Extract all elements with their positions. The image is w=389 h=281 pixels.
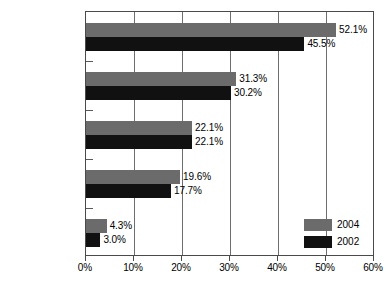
legend-item-2002: 2002 [304, 235, 372, 249]
bar-2002-billing [86, 37, 304, 51]
bar-2004-payroll [86, 170, 180, 184]
bar-value-label: 17.7% [174, 184, 202, 198]
x-axis-tick-label: 10% [113, 262, 153, 274]
x-axis-tick-label: 40% [257, 262, 297, 274]
bar-2004-check-tamp [86, 72, 236, 86]
bar-value-label: 4.3% [110, 219, 132, 233]
x-axis-tick [181, 256, 182, 261]
bar-2002-register-disb [86, 233, 100, 247]
x-axis-labels: 0%10%20%30%40%50%60% [0, 262, 389, 278]
chart-legend: 2004 2002 [304, 218, 372, 252]
bar-2004-billing [86, 23, 336, 37]
bar-value-label: 22.1% [195, 135, 223, 149]
x-axis-tick [133, 256, 134, 261]
bar-value-label: 19.6% [183, 170, 211, 184]
legend-swatch-2004 [304, 219, 332, 231]
category-separator-tick [86, 61, 93, 62]
legend-label-2004: 2004 [337, 218, 359, 232]
x-axis-tick-label: 20% [161, 262, 201, 274]
bar-2002-payroll [86, 184, 171, 198]
x-axis-tick-label: 50% [305, 262, 345, 274]
bar-value-label: 52.1% [339, 23, 367, 37]
x-axis-tick-label: 0% [65, 262, 105, 274]
plot-area: 52.1%45.5%31.3%30.2%22.1%22.1%19.6%17.7%… [85, 11, 374, 256]
x-axis-tick [325, 256, 326, 261]
bar-2002-expense-reimb [86, 135, 192, 149]
x-axis-tick [229, 256, 230, 261]
bar-value-label: 45.5% [307, 37, 335, 51]
legend-label-2002: 2002 [337, 235, 359, 249]
legend-item-2004: 2004 [304, 218, 372, 232]
legend-swatch-2002 [304, 236, 332, 248]
x-axis-tick [85, 256, 86, 261]
bar-2002-check-tamp [86, 86, 231, 100]
bar-value-label: 30.2% [234, 86, 262, 100]
x-axis-tick-label: 30% [209, 262, 249, 274]
bar-value-label: 31.3% [239, 72, 267, 86]
category-separator-tick [86, 208, 93, 209]
x-axis-tick [277, 256, 278, 261]
x-axis-tick-label: 60% [353, 262, 389, 274]
bar-chart: BillingCheck tampExpense reimbPayrollReg… [0, 0, 389, 281]
category-separator-tick [86, 110, 93, 111]
x-axis-tick [373, 256, 374, 261]
bar-2004-register-disb [86, 219, 107, 233]
category-separator-tick [86, 159, 93, 160]
bar-value-label: 22.1% [195, 121, 223, 135]
bar-value-label: 3.0% [103, 233, 125, 247]
bar-2004-expense-reimb [86, 121, 192, 135]
